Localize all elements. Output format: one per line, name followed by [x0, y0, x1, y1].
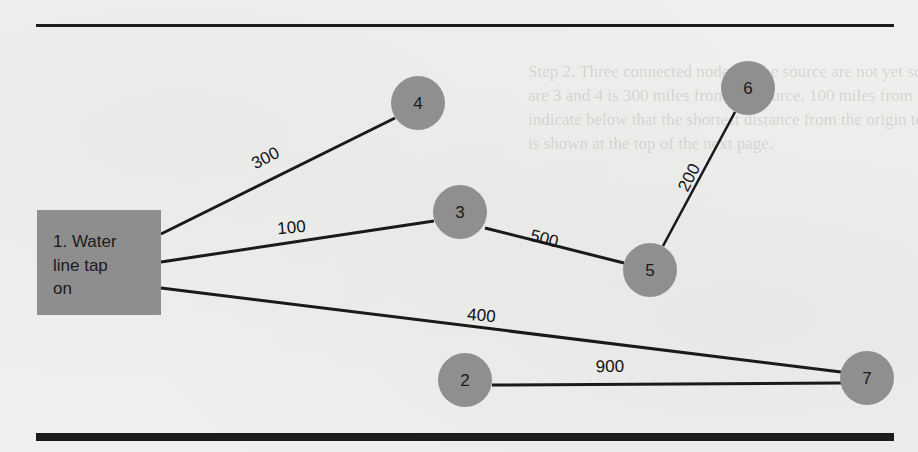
source-label-line: 1. Water: [53, 230, 161, 254]
bottom-rule: [36, 433, 894, 441]
nodes: 2 3 4 5 6 7: [391, 61, 894, 407]
node-label: 2: [460, 371, 469, 390]
node-4: 4: [391, 76, 445, 130]
node-label: 5: [645, 261, 654, 280]
source-label-line: line tap: [53, 254, 161, 278]
edge-label-1-3: 100: [277, 217, 307, 238]
node-label: 6: [743, 79, 752, 98]
source-label-line: on: [53, 277, 161, 301]
edge-1-7: [161, 288, 841, 372]
source-node-water-line-tap: 1. Water line tap on: [37, 210, 161, 315]
node-5: 5: [623, 243, 677, 297]
edge-label-3-5: 500: [528, 226, 560, 251]
edge-1-4: [161, 118, 395, 234]
edge-label-5-6: 200: [674, 161, 704, 195]
scanned-page: Step 2. Three connected nodes to the sou…: [0, 0, 918, 452]
node-7: 7: [840, 351, 894, 405]
node-2: 2: [438, 353, 492, 407]
node-3: 3: [433, 185, 487, 239]
node-label: 3: [455, 203, 464, 222]
edge-label-2-7: 900: [596, 357, 625, 376]
edge-5-6: [663, 112, 735, 246]
edge-label-1-4: 300: [249, 143, 283, 173]
node-label: 7: [862, 369, 871, 388]
node-6: 6: [721, 61, 775, 115]
node-label: 4: [413, 94, 422, 113]
edge-2-7: [492, 383, 841, 385]
edge-label-1-7: 400: [467, 305, 497, 326]
